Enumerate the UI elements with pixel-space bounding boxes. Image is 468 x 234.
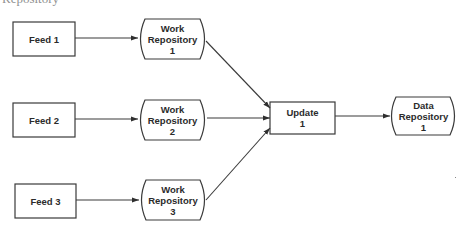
feed-3-box xyxy=(15,184,76,218)
edge-work-repo1-to-update1 xyxy=(206,41,270,108)
update-1-box xyxy=(270,102,335,134)
edge-work-repo3-to-update1 xyxy=(206,128,270,200)
scan-speck xyxy=(455,177,456,178)
feed-1-box xyxy=(13,22,75,56)
work-repository-2-shape xyxy=(141,100,205,140)
feed-2-box xyxy=(13,103,75,137)
data-flow-diagram xyxy=(0,0,468,234)
data-repository-1-shape xyxy=(392,97,455,135)
work-repository-1-shape xyxy=(141,19,205,59)
work-repository-3-shape xyxy=(142,180,205,220)
